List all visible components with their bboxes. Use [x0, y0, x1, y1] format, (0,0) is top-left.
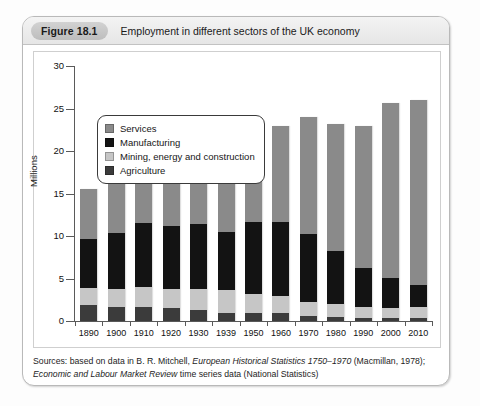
bar-segment-mining: [190, 289, 207, 310]
bar-segment-mining: [135, 287, 152, 307]
x-axis-tick: [377, 321, 378, 326]
x-axis-tick: [240, 321, 241, 326]
bar-segment-mining: [272, 296, 289, 314]
figure-header: Figure 18.1 Employment in different sect…: [23, 17, 449, 45]
sources-italic-1: European Historical Statistics 1750–1970: [192, 356, 351, 366]
x-axis-label: 2010: [408, 328, 428, 338]
sources-line-2: Economic and Labour Market Review time s…: [33, 368, 441, 381]
legend-label: Services: [120, 123, 156, 134]
legend-item-mining: Mining, energy and construction: [105, 149, 255, 163]
bar-segment-services: [300, 117, 317, 234]
bar-segment-mining: [163, 289, 180, 309]
legend-swatch-icon: [105, 124, 114, 133]
y-axis-tick: [66, 279, 74, 280]
bar-segment-manufacturing: [218, 232, 235, 291]
legend-item-services: Services: [105, 121, 255, 135]
bar-segment-manufacturing: [382, 278, 399, 309]
bar-segment-mining: [355, 307, 372, 317]
figure-number-pill: Figure 18.1: [31, 22, 108, 40]
x-axis-tick: [212, 321, 213, 326]
y-axis-tick: [66, 109, 74, 110]
bar-segment-services: [108, 182, 125, 232]
bar-segment-manufacturing: [163, 226, 180, 289]
sources-line-1: Sources: based on data in B. R. Mitchell…: [33, 355, 441, 368]
x-axis-label: 1890: [79, 328, 99, 338]
y-axis-label: 30: [34, 60, 64, 71]
y-axis-title: Millions: [28, 155, 39, 187]
bar-segment-services: [382, 103, 399, 277]
bar-1890: [80, 189, 97, 321]
x-axis-tick: [295, 321, 296, 326]
sources-italic-2: Economic and Labour Market Review: [33, 369, 177, 379]
x-axis-label: 1930: [189, 328, 209, 338]
bar-segment-manufacturing: [410, 285, 427, 307]
x-axis-tick: [350, 321, 351, 326]
legend-label: Manufacturing: [120, 137, 180, 148]
bar-segment-agriculture: [382, 318, 399, 321]
bar-segment-agriculture: [327, 317, 344, 321]
bar-segment-mining: [245, 294, 262, 313]
bar-segment-agriculture: [218, 313, 235, 322]
bar-segment-manufacturing: [355, 268, 372, 307]
legend-label: Mining, energy and construction: [120, 151, 255, 162]
bar-segment-manufacturing: [135, 223, 152, 287]
y-axis-tick: [66, 151, 74, 152]
bar-1960: [272, 126, 289, 321]
x-axis-label: 1920: [161, 328, 181, 338]
y-axis-tick: [66, 194, 74, 195]
bar-segment-mining: [382, 308, 399, 318]
y-axis-label: 0: [34, 315, 64, 326]
bar-1990: [355, 126, 372, 321]
figure-box: Figure 18.1 Employment in different sect…: [22, 16, 450, 386]
x-axis-tick: [185, 321, 186, 326]
bar-segment-services: [272, 126, 289, 221]
legend-swatch-icon: [105, 138, 114, 147]
bar-segment-mining: [327, 304, 344, 317]
sources-note: Sources: based on data in B. R. Mitchell…: [33, 355, 441, 380]
bar-1910: [135, 166, 152, 321]
x-axis-tick: [322, 321, 323, 326]
x-axis-label: 2000: [381, 328, 401, 338]
legend-item-manufacturing: Manufacturing: [105, 135, 255, 149]
bar-segment-agriculture: [300, 316, 317, 321]
legend-swatch-icon: [105, 152, 114, 161]
bar-segment-manufacturing: [190, 224, 207, 289]
x-axis-label: 1939: [216, 328, 236, 338]
bar-segment-services: [80, 189, 97, 239]
figure-caption: Employment in different sectors of the U…: [121, 25, 360, 37]
bar-segment-manufacturing: [80, 239, 97, 287]
bar-2000: [382, 103, 399, 321]
x-axis-label: 1970: [298, 328, 318, 338]
y-axis-tick: [66, 321, 74, 322]
bar-segment-mining: [300, 302, 317, 316]
bar-segment-agriculture: [80, 305, 97, 321]
sources-text-a: Sources: based on data in B. R. Mitchell…: [33, 356, 192, 366]
bar-segment-manufacturing: [245, 222, 262, 293]
x-axis-tick: [102, 321, 103, 326]
x-axis-tick: [267, 321, 268, 326]
chart-legend: ServicesManufacturingMining, energy and …: [97, 115, 265, 184]
bar-segment-mining: [218, 290, 235, 312]
x-axis-label: 1900: [106, 328, 126, 338]
x-axis-label: 1910: [134, 328, 154, 338]
y-axis-label: 5: [34, 273, 64, 284]
stacked-bar-series: [75, 66, 432, 321]
x-axis-line: [74, 321, 432, 322]
bar-segment-services: [327, 124, 344, 252]
x-axis-label: 1960: [271, 328, 291, 338]
x-axis-label: 1950: [243, 328, 263, 338]
x-axis-tick: [75, 321, 76, 326]
bar-segment-agriculture: [355, 318, 372, 321]
bar-segment-mining: [108, 289, 125, 307]
bar-segment-manufacturing: [272, 222, 289, 296]
legend-swatch-icon: [105, 166, 114, 175]
sources-text-b: (Macmillan, 1978);: [351, 356, 425, 366]
bar-segment-services: [355, 126, 372, 269]
x-axis-tick: [157, 321, 158, 326]
legend-item-agriculture: Agriculture: [105, 163, 255, 177]
bar-segment-services: [410, 100, 427, 285]
x-axis-tick: [432, 321, 433, 326]
bar-segment-agriculture: [190, 310, 207, 321]
bar-1980: [327, 124, 344, 321]
x-axis-label: 1980: [326, 328, 346, 338]
